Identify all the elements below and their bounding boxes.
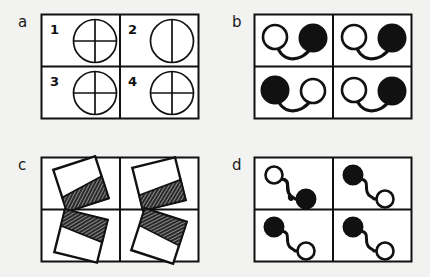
white-circle [377,191,394,208]
black-circle [262,77,289,104]
white-circle [266,167,283,184]
white-circle [377,243,394,260]
black-circle [379,25,406,52]
figure-canvas: a 1 2 3 [0,0,430,277]
white-circle [263,25,287,49]
black-circle [379,78,406,105]
black-circle [265,218,284,237]
white-circle [301,79,325,103]
white-circle [298,243,315,260]
black-circle [344,166,363,185]
black-circle [344,218,363,237]
white-circle [342,78,366,102]
white-circle [342,25,366,49]
black-circle [300,25,327,52]
panel-b-figure [0,0,430,139]
panel-d-figure [0,139,430,277]
black-circle [297,190,316,209]
